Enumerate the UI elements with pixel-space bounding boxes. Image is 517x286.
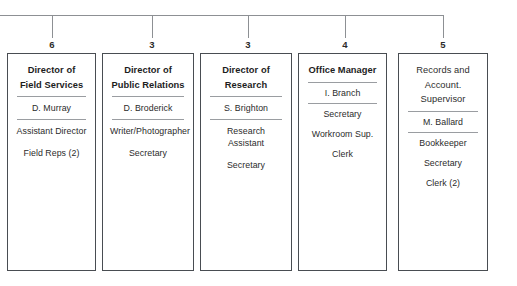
connector-drop-office-manager	[345, 15, 346, 38]
unit-title-line: Field Services	[15, 78, 88, 93]
unit-title-field-services: Director ofField Services	[15, 60, 88, 96]
unit-title-records-accounting: Records andAccount. Supervisor	[406, 60, 480, 111]
unit-title-line: Director of	[208, 63, 284, 78]
unit-row: Writer/Photographer	[110, 120, 186, 142]
connector-lines	[0, 0, 517, 60]
count-label-field-services: 6	[40, 40, 64, 50]
unit-row: M. Ballard	[406, 112, 480, 132]
unit-row: Research Assistant	[208, 120, 284, 154]
unit-row: D. Broderick	[110, 97, 186, 119]
unit-row: S. Brighton	[208, 97, 284, 119]
unit-title-line: Account. Supervisor	[406, 78, 480, 107]
unit-row: Secretary	[306, 104, 379, 124]
unit-row: Clerk (2)	[406, 173, 480, 193]
unit-title-office-manager: Office Manager	[306, 60, 379, 82]
unit-box-public-relations[interactable]: Director ofPublic RelationsD. BroderickW…	[102, 53, 194, 271]
unit-row: Secretary	[110, 142, 186, 164]
org-chart: 63345 Director ofField ServicesD. Murray…	[0, 0, 517, 286]
unit-title-line: Public Relations	[110, 78, 186, 93]
unit-row: Bookkeeper	[406, 133, 480, 153]
unit-row: Secretary	[208, 154, 284, 176]
connector-drop-records-accounting	[443, 15, 444, 38]
connector-drop-public-relations	[152, 15, 153, 38]
count-label-research: 3	[236, 40, 260, 50]
unit-row: Assistant Director	[15, 120, 88, 142]
unit-title-research: Director ofResearch	[208, 60, 284, 96]
count-label-public-relations: 3	[140, 40, 164, 50]
unit-box-records-accounting[interactable]: Records andAccount. SupervisorM. Ballard…	[398, 53, 488, 271]
unit-title-line: Research	[208, 78, 284, 93]
unit-box-office-manager[interactable]: Office ManagerI. BranchSecretaryWorkroom…	[298, 53, 387, 271]
count-label-records-accounting: 5	[431, 40, 455, 50]
unit-title-line: Director of	[110, 63, 186, 78]
unit-box-research[interactable]: Director ofResearchS. BrightonResearch A…	[200, 53, 292, 271]
unit-row: Field Reps (2)	[15, 142, 88, 164]
connector-horizontal-bus	[0, 15, 443, 16]
unit-title-line: Records and	[406, 63, 480, 78]
unit-row: D. Murray	[15, 97, 88, 119]
unit-title-public-relations: Director ofPublic Relations	[110, 60, 186, 96]
count-label-office-manager: 4	[333, 40, 357, 50]
unit-title-line: Office Manager	[306, 63, 379, 78]
connector-drop-research	[248, 15, 249, 38]
connector-drop-field-services	[52, 15, 53, 38]
unit-row: Clerk	[306, 144, 379, 164]
unit-row: I. Branch	[306, 83, 379, 103]
unit-row: Workroom Sup.	[306, 124, 379, 144]
unit-row: Secretary	[406, 153, 480, 173]
unit-box-field-services[interactable]: Director ofField ServicesD. MurrayAssist…	[7, 53, 96, 271]
unit-title-line: Director of	[15, 63, 88, 78]
